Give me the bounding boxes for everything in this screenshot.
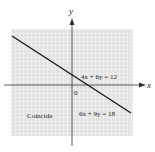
equation-label-2: 6x + 9y = 18 [79, 110, 115, 118]
x-axis-label: x [146, 80, 151, 90]
x-axis-arrow-icon [139, 83, 146, 88]
y-axis-arrow-icon [70, 18, 75, 25]
equation-label-1: 4x + 6y = 12 [81, 73, 117, 81]
coincide-annotation: Coincide [27, 112, 52, 120]
coordinate-plane: y x 0 4x + 6y = 12 6x + 9y = 18 Coincide [0, 0, 155, 152]
origin-label: 0 [74, 89, 78, 97]
y-axis-label: y [68, 6, 73, 16]
